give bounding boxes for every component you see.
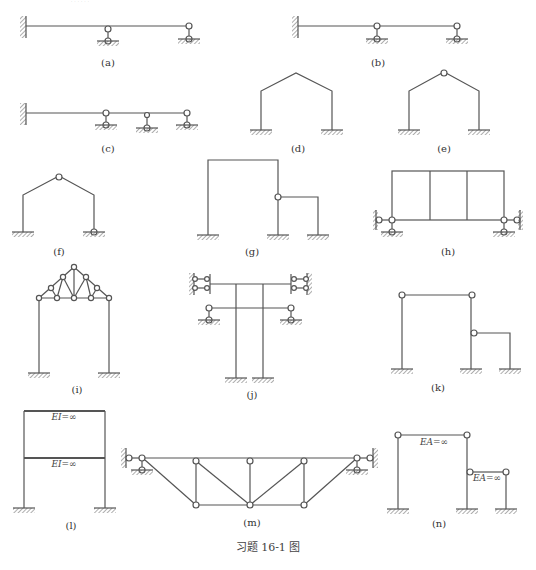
label-m: (m) [243, 517, 260, 528]
diagram-d [250, 73, 343, 135]
diagram-c [20, 103, 198, 133]
annotation-l-mid-ei: EI=∞ [51, 459, 76, 469]
label-c: (c) [101, 143, 114, 154]
diagram-i [28, 264, 120, 378]
figure-caption: 习题 16-1 图 [236, 538, 301, 554]
diagram-k [391, 292, 521, 374]
diagram-j [189, 273, 312, 383]
annotation-n-top-ea: EA=∞ [420, 437, 448, 447]
label-l: (l) [65, 520, 76, 531]
label-a: (a) [101, 57, 115, 68]
diagram-f [12, 174, 105, 237]
annotation-l-top-ei: EI=∞ [51, 412, 76, 422]
diagram-a [20, 16, 200, 46]
diagram-m [121, 448, 378, 508]
diagram-canvas [0, 0, 536, 570]
label-f: (f) [53, 246, 65, 257]
label-g: (g) [245, 246, 259, 257]
label-b: (b) [371, 57, 385, 68]
label-n: (n) [432, 518, 446, 529]
label-h: (h) [441, 246, 455, 257]
label-e: (e) [437, 143, 451, 154]
diagram-h [373, 171, 523, 237]
label-j: (j) [247, 389, 258, 400]
label-d: (d) [291, 143, 305, 154]
label-i: (i) [71, 384, 82, 395]
diagram-g [197, 160, 329, 240]
diagram-e [398, 70, 490, 135]
diagram-b [292, 16, 468, 44]
annotation-n-low-ea: EA=∞ [473, 473, 501, 483]
label-k: (k) [431, 382, 445, 393]
